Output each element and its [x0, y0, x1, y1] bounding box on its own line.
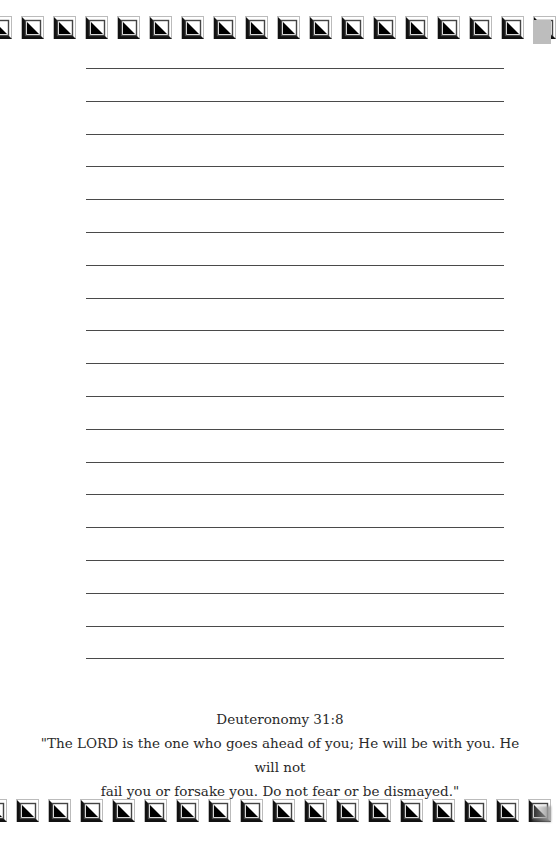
writing-line [86, 199, 504, 200]
writing-line [86, 593, 504, 594]
verse-line-1: "The LORD is the one who goes ahead of y… [40, 731, 520, 779]
writing-line [86, 658, 504, 659]
writing-line [86, 363, 504, 364]
border-tile-icon [405, 16, 429, 40]
writing-line [86, 68, 504, 69]
border-tile-icon [496, 799, 520, 823]
border-tile-icon [144, 799, 168, 823]
writing-line [86, 134, 504, 135]
writing-line [86, 462, 504, 463]
border-tile-icon [240, 799, 264, 823]
writing-line [86, 494, 504, 495]
border-tile-icon [80, 799, 104, 823]
border-tile-icon [85, 16, 109, 40]
border-tile-icon [309, 16, 333, 40]
border-tile-icon [149, 16, 173, 40]
border-tile-icon [373, 16, 397, 40]
top-border [0, 16, 551, 42]
border-tile-icon [0, 16, 13, 40]
border-tile-icon [277, 16, 301, 40]
border-tile-icon [21, 16, 45, 40]
writing-line [86, 330, 504, 331]
border-tile-icon [176, 799, 200, 823]
border-tile-icon [464, 799, 488, 823]
border-tile-icon [16, 799, 40, 823]
border-tile-icon [336, 799, 360, 823]
writing-line [86, 396, 504, 397]
page-tab-bottom-right [532, 806, 551, 822]
writing-line [86, 101, 504, 102]
border-tile-icon [245, 16, 269, 40]
writing-line [86, 265, 504, 266]
writing-line [86, 429, 504, 430]
border-tile-icon [469, 16, 493, 40]
verse-reference: Deuteronomy 31:8 [40, 707, 520, 731]
border-tile-icon [181, 16, 205, 40]
border-tile-icon [432, 799, 456, 823]
border-tile-icon [48, 799, 72, 823]
writing-line [86, 232, 504, 233]
border-tile-icon [368, 799, 392, 823]
border-tile-icon [0, 799, 8, 823]
border-tile-icon [341, 16, 365, 40]
verse-text: "The LORD is the one who goes ahead of y… [40, 731, 520, 803]
border-tile-icon [501, 16, 525, 40]
border-tile-icon [208, 799, 232, 823]
border-tile-icon [304, 799, 328, 823]
border-tile-icon [117, 16, 141, 40]
page-tab-top-right [533, 20, 551, 44]
bottom-border [0, 799, 551, 825]
border-tile-icon [112, 799, 136, 823]
writing-line [86, 166, 504, 167]
border-tile-icon [400, 799, 424, 823]
writing-line [86, 626, 504, 627]
writing-line [86, 560, 504, 561]
writing-line [86, 298, 504, 299]
border-tile-icon [53, 16, 77, 40]
writing-line [86, 527, 504, 528]
border-tile-icon [272, 799, 296, 823]
border-tile-icon [437, 16, 461, 40]
border-tile-icon [213, 16, 237, 40]
